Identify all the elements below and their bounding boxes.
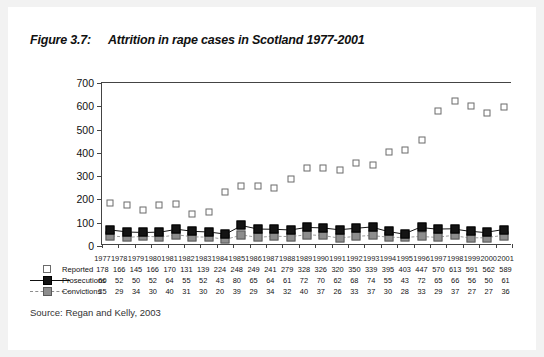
data-point-reported	[205, 208, 212, 215]
table-cell: 31	[178, 287, 195, 296]
table-cell: 320	[329, 265, 346, 274]
data-point-reported	[287, 176, 294, 183]
table-cell: 52	[195, 276, 212, 285]
table-row-label: Reported	[30, 265, 94, 274]
table-cell: 328	[296, 265, 313, 274]
data-point-prosecutions	[122, 227, 131, 236]
table-cell: 66	[447, 276, 464, 285]
table-cell: 29	[111, 287, 128, 296]
data-point-reported	[320, 165, 327, 172]
table-cell: 30	[195, 287, 212, 296]
table-column-header: 1983	[195, 254, 212, 263]
data-point-convictions	[352, 232, 361, 241]
data-point-prosecutions	[499, 225, 508, 234]
data-point-prosecutions	[303, 223, 312, 232]
table-cell: 35	[94, 287, 111, 296]
table-column-header: 1978	[111, 254, 128, 263]
x-axis-tick	[233, 244, 234, 248]
table-column-header: 2000	[480, 254, 497, 263]
table-column-header: 1998	[447, 254, 464, 263]
table-cell: 570	[430, 265, 447, 274]
data-table: 1977197819791980198119821983198419851986…	[30, 253, 514, 297]
data-point-prosecutions	[286, 225, 295, 234]
table-cell: 72	[296, 276, 313, 285]
table-column-header: 1989	[296, 254, 313, 263]
data-point-reported	[451, 98, 458, 105]
table-cell: 279	[279, 265, 296, 274]
table-column-header: 1994	[380, 254, 397, 263]
x-axis-tick	[414, 244, 415, 248]
x-axis-tick	[282, 244, 283, 248]
y-axis-tick	[97, 130, 102, 131]
chart-container: 0100200300400500600700	[8, 7, 536, 350]
table-cell: 37	[363, 287, 380, 296]
table-cell: 34	[128, 287, 145, 296]
table-column-header: 1977	[94, 254, 111, 263]
x-axis-tick	[217, 244, 218, 248]
table-cell: 131	[178, 265, 195, 274]
x-axis-tick	[397, 244, 398, 248]
table-column-header: 1993	[363, 254, 380, 263]
data-point-reported	[484, 110, 491, 117]
x-axis-tick	[135, 244, 136, 248]
table-cell: 65	[245, 276, 262, 285]
data-point-convictions	[335, 233, 344, 242]
data-point-prosecutions	[237, 221, 246, 230]
table-column-header: 1980	[144, 254, 161, 263]
x-axis-tick	[184, 244, 185, 248]
data-point-prosecutions	[352, 224, 361, 233]
table-cell: 145	[128, 265, 145, 274]
x-axis-tick	[168, 244, 169, 248]
data-point-prosecutions	[368, 222, 377, 231]
table-cell: 36	[497, 287, 514, 296]
data-point-prosecutions	[221, 230, 230, 239]
data-point-reported	[222, 188, 229, 195]
table-cell: 64	[262, 276, 279, 285]
table-column-header: 1990	[312, 254, 329, 263]
data-point-reported	[238, 183, 245, 190]
table-cell: 50	[128, 276, 145, 285]
table-cell: 29	[430, 287, 447, 296]
table-cell: 52	[144, 276, 161, 285]
data-point-prosecutions	[155, 227, 164, 236]
x-axis-tick	[315, 244, 316, 248]
table-column-header: 1988	[279, 254, 296, 263]
data-point-reported	[353, 159, 360, 166]
data-point-reported	[123, 202, 130, 209]
x-axis-tick	[118, 244, 119, 248]
table-cell: 50	[480, 276, 497, 285]
data-point-reported	[500, 103, 507, 110]
x-axis-tick	[266, 244, 267, 248]
table-cell: 403	[396, 265, 413, 274]
table-cell: 55	[178, 276, 195, 285]
data-point-prosecutions	[270, 225, 279, 234]
table-column-header: 1996	[413, 254, 430, 263]
table-cell: 395	[380, 265, 397, 274]
data-point-reported	[271, 184, 278, 191]
table-column-header: 1982	[178, 254, 195, 263]
table-cell: 613	[447, 265, 464, 274]
x-axis-tick	[430, 244, 431, 248]
table-column-header: 1984	[212, 254, 229, 263]
table-cell: 60	[94, 276, 111, 285]
table-cell: 80	[228, 276, 245, 285]
y-axis-tick	[97, 106, 102, 107]
data-point-reported	[402, 147, 409, 154]
table-cell: 178	[94, 265, 111, 274]
table-column-header: 1997	[430, 254, 447, 263]
table-cell: 61	[497, 276, 514, 285]
data-point-convictions	[319, 231, 328, 240]
table-cell: 56	[464, 276, 481, 285]
figure-page: Figure 3.7:Attrition in rape cases in Sc…	[8, 7, 536, 350]
table-column-header: 1985	[228, 254, 245, 263]
y-axis-tick	[97, 223, 102, 224]
data-point-prosecutions	[385, 227, 394, 236]
table-column-header: 1986	[245, 254, 262, 263]
table-cell: 34	[262, 287, 279, 296]
data-point-prosecutions	[434, 224, 443, 233]
table-cell: 27	[480, 287, 497, 296]
x-axis-tick	[446, 244, 447, 248]
table-column-header: 2001	[497, 254, 514, 263]
table-column-header: 1981	[161, 254, 178, 263]
table-cell: 339	[363, 265, 380, 274]
